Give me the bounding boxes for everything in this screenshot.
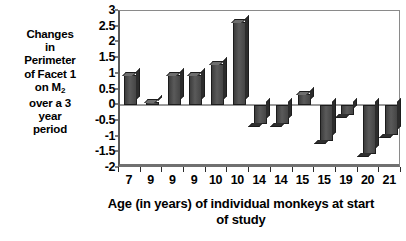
y-tick-label: -2 (105, 160, 115, 174)
bar-side-face (201, 68, 205, 100)
x-tick-mark (335, 167, 336, 172)
x-tick-label: 10 (231, 173, 244, 187)
x-tick-mark (118, 167, 119, 172)
x-tick-label: 10 (209, 173, 222, 187)
y-tick-label: 1.5 (99, 50, 115, 64)
bar-top-face (209, 61, 224, 65)
bar-side-face (180, 68, 184, 100)
x-tick-mark (292, 167, 293, 172)
bar-side-face (158, 95, 162, 101)
bar (298, 94, 311, 105)
x-tick-mark (248, 167, 249, 172)
bar-top-face (166, 72, 181, 76)
x-tick-label: 9 (191, 173, 198, 187)
x-tick-mark (161, 167, 162, 172)
chart-figure: Changes in Perimeter of Facet 1 on M2 ov… (0, 0, 406, 241)
x-tick-label: 19 (339, 173, 352, 187)
bar (124, 75, 137, 105)
y-tick-label: 0.5 (99, 82, 115, 96)
x-tick-mark (205, 167, 206, 172)
y-axis-title-line-8: period (2, 123, 98, 136)
x-tick-label: 14 (274, 173, 287, 187)
bar-top-face (314, 140, 329, 144)
bar-top-face (357, 153, 372, 157)
y-axis-title-line-1: Changes (2, 28, 98, 41)
bar (146, 102, 159, 105)
bar-side-face (245, 15, 249, 100)
bar-series (120, 11, 399, 164)
y-axis-title-line-3: Perimeter (2, 54, 98, 67)
x-tick-mark (378, 167, 379, 172)
x-tick-mark (270, 167, 271, 172)
bar (341, 105, 354, 114)
y-tick-label: -1.5 (95, 144, 115, 158)
y-axis-title-line-6: over a 3 (2, 97, 98, 110)
bar (254, 105, 267, 124)
bar-side-face (310, 87, 314, 100)
y-tick-label: 2.5 (99, 19, 115, 33)
bar-top-face (231, 19, 246, 23)
bar (276, 105, 289, 124)
y-axis-title-line-5-text: on M (35, 81, 61, 93)
x-tick-mark (183, 167, 184, 172)
bar-top-face (379, 134, 394, 138)
x-axis-title: Age (in years) of individual monkeys at … (78, 196, 404, 228)
bar (168, 75, 181, 105)
bar-top-face (335, 114, 350, 118)
x-tick-mark (140, 167, 141, 172)
y-axis-title-line-4: of Facet 1 (2, 68, 98, 81)
bar-top-face (270, 123, 285, 127)
x-axis-ticks: 7999101014141515192021 (118, 167, 400, 191)
bar-side-face (375, 98, 379, 149)
bar-top-face (144, 99, 159, 103)
bar-side-face (397, 98, 401, 130)
y-axis-title-line-7: year (2, 110, 98, 123)
bar-side-face (136, 68, 140, 100)
bar-side-face (353, 98, 357, 109)
bar (363, 105, 376, 154)
x-axis-title-line-1: Age (in years) of individual monkeys at … (78, 196, 404, 212)
x-tick-label: 20 (361, 173, 374, 187)
y-axis-title-line-2: in (2, 41, 98, 54)
y-tick-label: -1 (105, 129, 115, 143)
bar (385, 105, 398, 135)
bar (189, 75, 202, 105)
x-tick-label: 7 (126, 173, 133, 187)
bar-top-face (248, 123, 263, 127)
x-tick-label: 21 (383, 173, 396, 187)
bar (320, 105, 333, 141)
x-tick-label: 15 (318, 173, 331, 187)
x-axis-title-line-2: of study (78, 212, 404, 228)
bar (233, 22, 246, 105)
bar-side-face (223, 57, 227, 100)
x-tick-label: 9 (169, 173, 176, 187)
x-tick-label: 15 (296, 173, 309, 187)
bar-side-face (266, 98, 270, 119)
plot-area (118, 10, 400, 167)
x-tick-label: 9 (147, 173, 154, 187)
x-tick-label: 14 (252, 173, 265, 187)
x-tick-mark (357, 167, 358, 172)
bar (211, 64, 224, 105)
y-tick-label: -0.5 (95, 113, 115, 127)
y-axis-title-line-5: on M2 (2, 81, 98, 97)
bar-top-face (296, 91, 311, 95)
x-tick-mark (313, 167, 314, 172)
bar-side-face (288, 98, 292, 119)
x-tick-mark (400, 167, 401, 172)
y-axis-title: Changes in Perimeter of Facet 1 on M2 ov… (2, 28, 98, 137)
y-axis-title-subscript: 2 (61, 86, 65, 95)
x-tick-mark (226, 167, 227, 172)
